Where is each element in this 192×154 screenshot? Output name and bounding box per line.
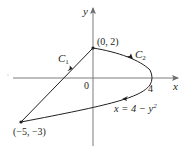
point-neg5-neg3: [19, 120, 22, 123]
origin-label: 0: [84, 81, 89, 91]
y-axis-label: y: [83, 6, 88, 17]
equation-exponent: 2: [153, 102, 157, 110]
curve-c1-segment: [21, 48, 93, 122]
x-axis-label: x: [173, 81, 178, 92]
point-0-2: [91, 46, 94, 49]
c1-direction-arrow-icon: [67, 66, 73, 72]
curve-c1-subscript: 1: [65, 58, 69, 66]
equation-text: x = 4 − y: [114, 103, 153, 114]
curve-label-c2: C2: [135, 49, 146, 62]
point-label-0-2: (0, 2): [97, 37, 119, 47]
curve-c2-subscript: 2: [142, 54, 146, 62]
x-tick-4-label: 4: [148, 84, 153, 94]
curve-label-c1: C1: [58, 53, 69, 66]
parabola-equation: x = 4 − y2: [114, 103, 157, 115]
stray-dot: [8, 75, 9, 76]
point-label-neg5-neg3: (−5, −3): [13, 127, 46, 137]
